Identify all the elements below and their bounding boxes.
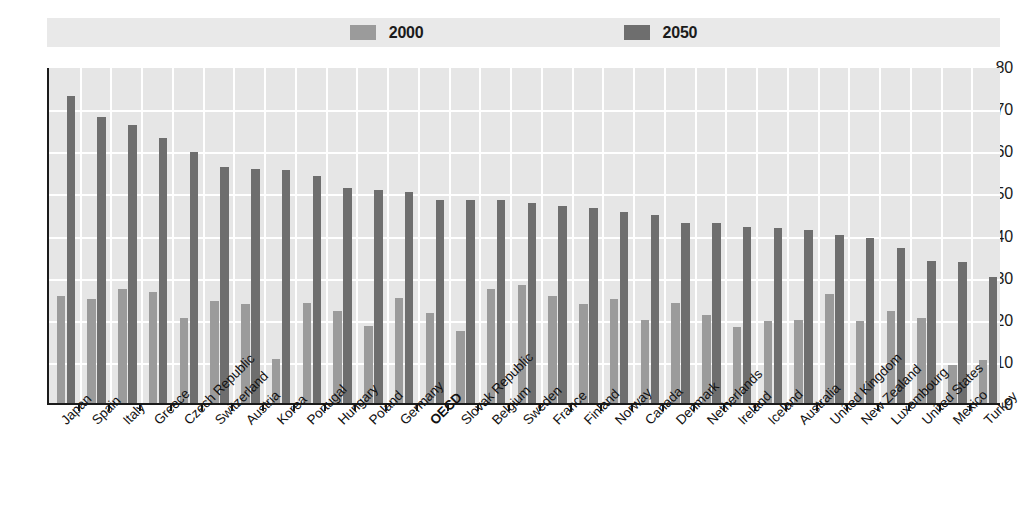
bar-group [941, 68, 972, 403]
legend-swatch-2000 [350, 25, 376, 40]
bar-2050 [220, 167, 229, 403]
bar-2050 [989, 277, 998, 403]
bar-group [572, 68, 603, 403]
bar-group [326, 68, 357, 403]
legend-label-2000: 2000 [389, 24, 424, 42]
bar-2050 [620, 212, 629, 403]
legend-entry-2050: 2050 [624, 24, 698, 42]
bar-group [172, 68, 203, 403]
bar-2050 [774, 228, 783, 403]
bar-group [818, 68, 849, 403]
chart-legend: 2000 2050 [47, 18, 1000, 47]
bar-group [541, 68, 572, 403]
bar-group [725, 68, 756, 403]
bar-2000 [118, 289, 127, 403]
bar-group [695, 68, 726, 403]
bar-group [295, 68, 326, 403]
bar-group [110, 68, 141, 403]
bar-2000 [57, 296, 66, 403]
bar-2050 [436, 200, 445, 403]
bar-group [602, 68, 633, 403]
bar-2050 [67, 96, 76, 403]
bar-group [356, 68, 387, 403]
bar-2050 [159, 138, 168, 403]
bar-2000 [149, 292, 158, 403]
bar-2050 [804, 230, 813, 403]
bar-2050 [313, 176, 322, 403]
bar-2050 [97, 117, 106, 403]
bar-group [203, 68, 234, 403]
bar-group [910, 68, 941, 403]
bar-2050 [128, 125, 137, 403]
bar-2000 [87, 299, 96, 403]
bar-2050 [835, 235, 844, 404]
x-axis-labels: JapanSpainItalyGreeceCzech RepublicSwitz… [0, 405, 1021, 531]
bar-group [633, 68, 664, 403]
bar-group [141, 68, 172, 403]
bar-2050 [681, 223, 690, 403]
bar-2050 [528, 203, 537, 404]
chart-root: 2000 2050 01020304050607080 JapanSpainIt… [0, 0, 1021, 531]
bar-group [387, 68, 418, 403]
bar-group [49, 68, 80, 403]
bar-2050 [651, 215, 660, 403]
bar-group [756, 68, 787, 403]
bar-2000 [395, 298, 404, 403]
bar-group [418, 68, 449, 403]
legend-swatch-2050 [624, 25, 650, 40]
bar-2050 [190, 152, 199, 403]
bar-2050 [712, 223, 721, 403]
bar-group [971, 68, 1002, 403]
bar-group [664, 68, 695, 403]
bar-2050 [374, 190, 383, 403]
legend-label-2050: 2050 [663, 24, 698, 42]
legend-entry-2000: 2000 [350, 24, 424, 42]
bar-2050 [405, 192, 414, 403]
bar-2000 [303, 303, 312, 403]
bar-group [848, 68, 879, 403]
bar-group [787, 68, 818, 403]
bar-2050 [466, 200, 475, 403]
bar-group [479, 68, 510, 403]
bar-2050 [558, 206, 567, 403]
bar-2050 [589, 208, 598, 403]
bar-group [449, 68, 480, 403]
bar-2050 [282, 170, 291, 403]
bar-2050 [343, 188, 352, 403]
bar-group [264, 68, 295, 403]
bar-2050 [251, 169, 260, 403]
bar-group [80, 68, 111, 403]
